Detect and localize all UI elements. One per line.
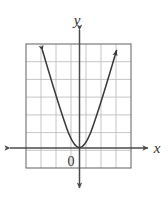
grid-lines [26,44,131,168]
x-axis-label: x [153,140,161,156]
coordinate-plane-figure: y x 0 [0,0,168,197]
origin-label: 0 [68,154,75,169]
y-axis-label: y [72,12,81,28]
graph-canvas: y x 0 [0,0,168,197]
grid-border [26,44,131,168]
